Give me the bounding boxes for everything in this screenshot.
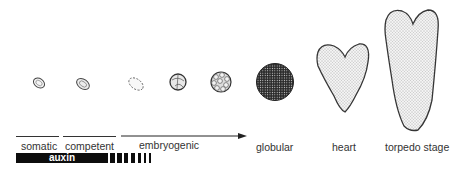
auxin-pulse-2 xyxy=(117,153,122,163)
auxin-bar: auxin xyxy=(16,153,108,163)
auxin-pulse-4 xyxy=(131,153,135,163)
somatic-line xyxy=(16,136,59,137)
label-torpedo-stage: torpedo stage xyxy=(385,141,449,153)
embryogenic-cell-icon xyxy=(127,75,146,92)
somatic-cell-icon xyxy=(32,76,47,90)
competent-line xyxy=(63,136,116,137)
cell-cluster-icon xyxy=(170,74,186,90)
globular-embryo-icon xyxy=(257,64,294,101)
proembryo-icon xyxy=(211,72,231,92)
auxin-pulse-3 xyxy=(124,153,128,163)
torpedo-embryo-icon xyxy=(385,10,438,131)
competent-cell-icon xyxy=(75,76,92,92)
label-somatic: somatic xyxy=(21,140,57,152)
auxin-pulse-1 xyxy=(110,153,115,163)
label-globular: globular xyxy=(256,141,293,153)
auxin-pulse-7 xyxy=(149,153,151,163)
label-heart: heart xyxy=(332,141,356,153)
label-embryogenic: embryogenic xyxy=(139,139,199,151)
heart-embryo-icon xyxy=(317,44,369,112)
auxin-pulse-5 xyxy=(138,153,141,163)
auxin-pulse-6 xyxy=(144,153,146,163)
label-competent: competent xyxy=(65,140,114,152)
